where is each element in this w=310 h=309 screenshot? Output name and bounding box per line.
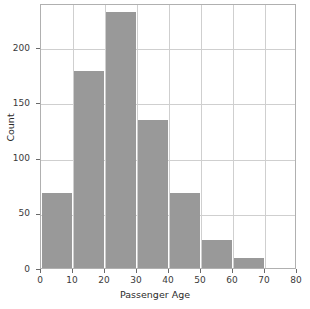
x-axis-tick (200, 269, 201, 273)
histogram-bar (42, 193, 72, 268)
plot-area (40, 4, 296, 269)
y-axis-tick-label: 200 (4, 44, 30, 53)
y-axis-tick (36, 159, 40, 160)
histogram-bar (202, 240, 232, 268)
x-axis-tick-label: 40 (157, 276, 179, 285)
x-axis-tick (232, 269, 233, 273)
x-axis-tick (40, 269, 41, 273)
x-axis-tick-label: 70 (253, 276, 275, 285)
x-axis-tick (264, 269, 265, 273)
x-axis-tick-label: 50 (189, 276, 211, 285)
gridline-vertical (233, 5, 234, 268)
histogram-bar (170, 193, 200, 268)
y-axis-tick (36, 103, 40, 104)
x-axis-tick-label: 20 (93, 276, 115, 285)
histogram-bar (74, 71, 104, 268)
x-axis-tick-label: 60 (221, 276, 243, 285)
y-axis-tick (36, 48, 40, 49)
gridline-vertical (201, 5, 202, 268)
x-axis-tick-label: 80 (285, 276, 307, 285)
histogram-bar (234, 258, 264, 268)
y-axis-title: Count (5, 98, 16, 158)
y-axis-tick-label: 0 (4, 265, 30, 274)
x-axis-tick (72, 269, 73, 273)
y-axis-tick (36, 214, 40, 215)
x-axis-tick (136, 269, 137, 273)
x-axis-tick-label: 30 (125, 276, 147, 285)
histogram-bar (138, 120, 168, 268)
histogram-bar (106, 12, 136, 268)
gridline-horizontal (41, 49, 295, 50)
gridline-vertical (265, 5, 266, 268)
x-axis-tick-label: 10 (61, 276, 83, 285)
x-axis-tick (168, 269, 169, 273)
y-axis-tick-label: 50 (4, 209, 30, 218)
x-axis-title: Passenger Age (0, 289, 310, 300)
x-axis-tick (296, 269, 297, 273)
x-axis-tick (104, 269, 105, 273)
x-axis-tick-label: 0 (29, 276, 51, 285)
histogram-figure: 050100150200 01020304050607080 Passenger… (0, 0, 310, 309)
